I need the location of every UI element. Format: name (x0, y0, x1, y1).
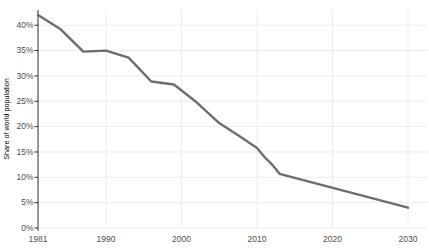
x-tick-label: 2010 (248, 234, 267, 244)
line-chart-container: 0%5%10%15%20%25%30%35%40%198119902000201… (0, 0, 429, 250)
gridlines (38, 10, 427, 228)
y-tick-label: 0% (21, 223, 34, 233)
x-tick-label: 1981 (29, 234, 48, 244)
data-series (38, 15, 408, 208)
y-tick-label: 25% (16, 96, 33, 106)
y-axis-title: Share of world population (2, 78, 11, 160)
line-chart: 0%5%10%15%20%25%30%35%40%198119902000201… (0, 0, 429, 250)
y-tick-label: 40% (16, 20, 33, 30)
x-tick-label: 2030 (399, 234, 418, 244)
x-tick-label: 2020 (323, 234, 342, 244)
x-tick-label: 2000 (172, 234, 191, 244)
x-tick-label: 1990 (96, 234, 115, 244)
y-tick-label: 30% (16, 71, 33, 81)
y-axis (35, 10, 39, 231)
axis-tick-labels: 0%5%10%15%20%25%30%35%40%198119902000201… (16, 20, 417, 244)
y-tick-label: 35% (16, 45, 33, 55)
y-tick-label: 15% (16, 147, 33, 157)
y-tick-label: 10% (16, 172, 33, 182)
y-tick-label: 5% (21, 197, 34, 207)
y-tick-label: 20% (16, 121, 33, 131)
series-line (38, 15, 408, 208)
